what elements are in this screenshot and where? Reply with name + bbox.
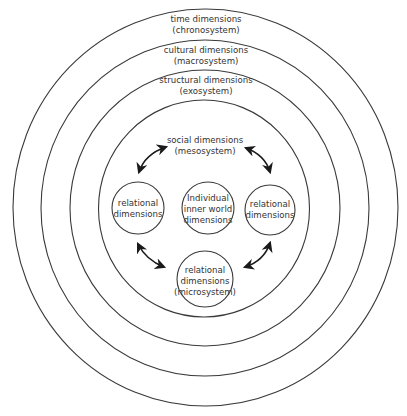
node-relational-left: relational dimensions — [112, 182, 164, 234]
label-exosystem: structural dimensions (exosystem) — [159, 75, 253, 96]
node-label-line1: relational — [185, 265, 225, 275]
ring-label-line2: (macrosystem) — [174, 56, 239, 66]
double-arrow-icon — [245, 243, 270, 267]
ring-label-line2: (mesosystem) — [174, 146, 235, 156]
ring-label-line1: structural dimensions — [159, 75, 253, 85]
node-label-line3: dimensions — [184, 215, 234, 225]
node-label-line1: Individual — [187, 193, 229, 203]
node-label-line1: relational — [118, 198, 158, 208]
ring-label-line1: time dimensions — [170, 14, 242, 24]
double-arrow-icon — [246, 148, 270, 172]
ring-label-line1: social dimensions — [167, 135, 244, 145]
node-relational-microsystem: relational dimensions (microsystem) — [174, 251, 236, 307]
ring-label-line1: cultural dimensions — [164, 45, 249, 55]
label-mesosystem: social dimensions (mesosystem) — [167, 135, 244, 156]
node-individual-center: Individual inner world dimensions — [182, 182, 234, 234]
node-relational-right: relational dimensions — [245, 185, 295, 235]
node-label-line2: dimensions — [181, 276, 231, 286]
node-label-line2: dimensions — [114, 209, 164, 219]
ring-label-line2: (exosystem) — [180, 86, 233, 96]
node-label-line1: relational — [250, 199, 290, 209]
node-label-line2: inner world — [184, 204, 233, 214]
label-chronosystem: time dimensions (chronosystem) — [170, 14, 242, 35]
node-label-line3: (microsystem) — [174, 287, 236, 297]
node-label-line2: dimensions — [246, 210, 296, 220]
double-arrow-icon — [139, 147, 166, 172]
label-macrosystem: cultural dimensions (macrosystem) — [164, 45, 249, 66]
double-arrow-icon — [138, 244, 164, 267]
ecological-systems-diagram: time dimensions (chronosystem) cultural … — [0, 0, 407, 416]
ring-label-line2: (chronosystem) — [172, 25, 239, 35]
